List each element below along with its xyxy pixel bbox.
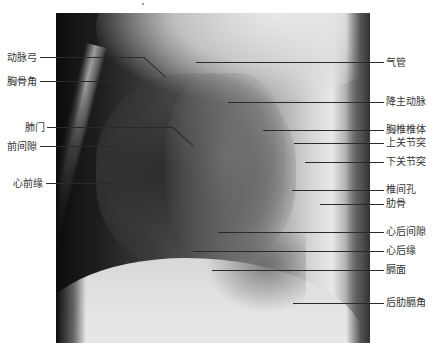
leader-anterior-space xyxy=(40,146,116,147)
label-sternal-angle: 胸骨角 xyxy=(7,76,37,88)
leader-hilum xyxy=(47,127,173,128)
leader-intervertebral-foramen xyxy=(292,190,384,191)
leader-superior-articular xyxy=(294,143,384,144)
label-anterior-space: 前间隙 xyxy=(7,141,37,153)
label-inferior-articular: 下关节突 xyxy=(386,156,426,168)
label-hilum: 肺门 xyxy=(25,122,45,134)
leader-sternal-angle xyxy=(40,81,120,82)
leader-rib xyxy=(320,204,384,205)
leader-diaphragm xyxy=(212,270,384,271)
leader-anterior-heart-border xyxy=(46,183,112,184)
label-costophrenic-angle: 后肋膈角 xyxy=(386,297,426,309)
leader-costophrenic-angle xyxy=(293,303,384,304)
leader-descending-aorta xyxy=(228,102,384,103)
leader-retrocardiac-space xyxy=(218,232,384,233)
label-posterior-heart-border: 心后缘 xyxy=(386,245,416,257)
label-rib: 肋骨 xyxy=(386,198,406,210)
label-vertebral-body: 胸椎椎体 xyxy=(386,124,426,136)
label-trachea: 气管 xyxy=(386,57,406,69)
leader-aortic-arch xyxy=(40,57,144,58)
label-superior-articular: 上关节突 xyxy=(386,137,426,149)
label-diaphragm: 膈面 xyxy=(386,264,406,276)
label-retrocardiac-space: 心后间隙 xyxy=(386,226,426,238)
label-aortic-arch: 动脉弓 xyxy=(7,52,37,64)
leader-posterior-heart-border xyxy=(193,251,384,252)
leader-inferior-articular xyxy=(305,162,384,163)
leader-trachea xyxy=(196,62,384,63)
label-anterior-heart-border: 心前缘 xyxy=(13,178,43,190)
marker-dot xyxy=(142,3,144,5)
leader-vertebral-body xyxy=(263,130,384,131)
label-descending-aorta: 降主动脉 xyxy=(386,96,426,108)
label-intervertebral-foramen: 椎间孔 xyxy=(386,184,416,196)
